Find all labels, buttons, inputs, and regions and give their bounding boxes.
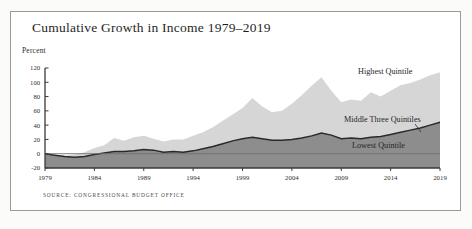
y-tick-label: 60 (33, 107, 40, 114)
series-label-lowest-quintile: Lowest Quintile (352, 141, 405, 150)
y-tick-label: 20 (33, 136, 40, 143)
x-tick-label: 2009 (334, 174, 348, 181)
x-tick-label: 2019 (433, 174, 447, 181)
source-note: Source: Congressional Budget Office (43, 192, 185, 198)
x-tick-label: 1999 (236, 174, 250, 181)
y-tick-label: 100 (30, 79, 41, 86)
x-tick-label: 1989 (137, 174, 151, 181)
x-tick-label: 1979 (38, 174, 52, 181)
y-tick-label: -20 (31, 164, 40, 171)
x-tick-label: 2004 (285, 174, 299, 181)
y-tick-label: 40 (33, 122, 40, 129)
x-tick-group: 197919841989199419992004200920142019 (38, 168, 447, 181)
x-tick-label: 1994 (186, 174, 200, 181)
x-tick-label: 1984 (88, 174, 102, 181)
series-label-highest-quintile: Highest Quintile (358, 67, 413, 76)
chart-figure: Cumulative Growth in Income 1979–2019 Pe… (0, 0, 472, 229)
y-tick-label: 0 (37, 150, 41, 157)
y-tick-label: 80 (33, 93, 40, 100)
x-tick-label: 2014 (384, 174, 398, 181)
series-label-middle-three-quintiles: Middle Three Quintiles (344, 115, 421, 124)
y-tick-label: 120 (30, 64, 41, 71)
